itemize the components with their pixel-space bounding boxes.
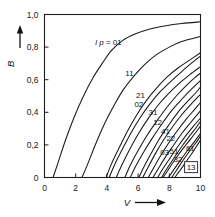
y-tick-label: 0,6 [27,75,39,85]
x-axis-title-group: V [124,197,166,208]
y-axis-ticks [45,15,49,178]
curve-label-01: l p = 01 [95,38,122,47]
curve-labels-group: l p = 01112102311241220351326113 [95,38,197,172]
curve-label-13: 13 [187,163,196,172]
y-axis-tick-labels: 00,20,40,60,81,0 [27,10,39,183]
curve-label-32: 32 [173,155,182,164]
x-tick-label: 8 [167,183,172,193]
y-tick-label: 0,2 [27,140,39,150]
curve-label-02: 02 [134,100,143,109]
curve-label-03: 03 [160,148,169,157]
up-arrow-icon [17,25,23,34]
y-tick-label: 0,4 [27,107,39,117]
x-tick-label: 0 [42,183,47,193]
y-axis-title: B [5,60,16,67]
x-tick-label: 10 [196,183,206,193]
x-tick-label: 2 [73,183,78,193]
curve-label-31: 31 [148,108,157,117]
curve-label-11: 11 [125,69,134,78]
x-axis-title: V [124,197,132,208]
curve-label-12: 12 [153,118,162,127]
curve-label-22: 22 [166,134,175,143]
right-arrow-icon [157,199,166,206]
chart-svg: 00,20,40,60,81,0 0246810 l p = 011121023… [0,0,215,217]
x-tick-label: 6 [136,183,141,193]
curve-label-61: 61 [186,144,195,153]
curve-label-21: 21 [136,91,145,100]
figure-chart: 00,20,40,60,81,0 0246810 l p = 011121023… [0,0,215,217]
y-axis-title-group: B [5,25,23,67]
y-tick-label: 0,8 [27,42,39,52]
x-axis-tick-labels: 0246810 [42,183,205,193]
y-tick-label: 0 [34,173,39,183]
y-tick-label: 1,0 [27,10,39,20]
x-tick-label: 4 [105,183,110,193]
